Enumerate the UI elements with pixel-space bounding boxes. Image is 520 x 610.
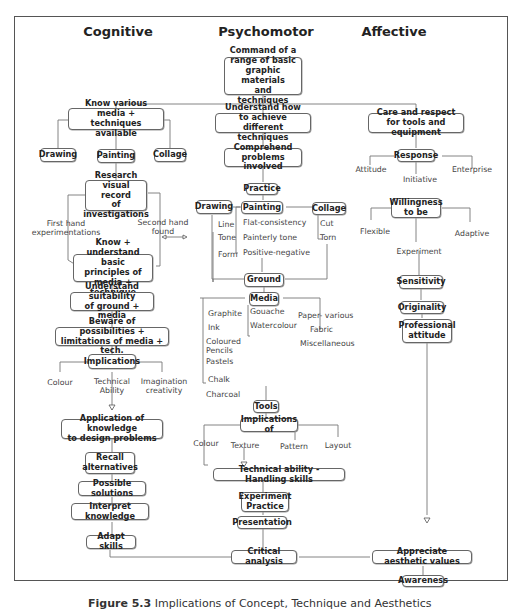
label-pattern: Pattern [280, 442, 308, 451]
header-affective: Affective [361, 24, 426, 39]
label-graphite: Graphite [208, 309, 242, 318]
label-paper-various: Paper- various [298, 311, 353, 320]
node-recall: Recall alternatives [85, 452, 135, 474]
label-form: Form [218, 250, 238, 259]
label-coloured-pencils: Coloured Pencils [206, 337, 241, 356]
label-tone: Tone [218, 233, 236, 242]
label-impl-colour: Colour [193, 439, 218, 448]
node-cog-collage: Collage [154, 148, 186, 162]
node-experiment-practice: Experiment Practice [241, 492, 289, 512]
node-comprehend: Comprehend problems involved [224, 148, 302, 167]
node-possible: Possible solutions [78, 481, 146, 496]
header-psychomotor: Psychomotor [218, 24, 313, 39]
node-implications: Implications [88, 354, 136, 369]
caption-label: Figure 5.3 [88, 597, 151, 610]
node-response: Response [397, 149, 435, 162]
label-layout: Layout [325, 441, 352, 450]
label-texture: Texture [231, 441, 260, 450]
node-implications-of: Implications of [240, 418, 298, 432]
label-cut: Cut [320, 219, 333, 228]
label-chalk: Chalk [208, 375, 230, 384]
label-initiative: Initiative [403, 175, 437, 184]
node-ground: Ground [244, 273, 284, 287]
label-technical-ability: Technical Ability [94, 377, 130, 396]
label-miscellaneous: Miscellaneous [300, 339, 355, 348]
node-psy-drawing: Drawing [196, 200, 232, 214]
node-presentation: Presentation [237, 516, 287, 529]
node-cog-drawing: Drawing [40, 148, 76, 162]
header-cognitive: Cognitive [83, 24, 152, 39]
node-critical-analysis: Critical analysis [231, 550, 297, 564]
caption-text: Implications of Concept, Technique and A… [155, 597, 432, 610]
node-originality: Originality [400, 301, 444, 314]
node-suitability: Understand suitability of ground + media [70, 292, 154, 311]
node-research: Research visual record of investigations [85, 180, 147, 211]
node-willingness: Willingness to be [391, 198, 441, 218]
node-psy-painting: Painting [241, 201, 283, 214]
label-first-hand: First hand experimentations [32, 219, 101, 238]
label-line: Line [218, 220, 234, 229]
label-charcoal: Charcoal [206, 390, 240, 399]
label-enterprise: Enterprise [452, 165, 492, 174]
node-application: Application of knowledge to design probl… [61, 419, 163, 439]
label-second-hand: Second hand found [138, 218, 189, 237]
node-technical-ability: Technical ability - Handling skills [213, 468, 345, 481]
node-psy-collage: Collage [312, 202, 346, 215]
label-attitude: Attitude [355, 165, 386, 174]
label-positive-negative: Positive-negative [243, 248, 310, 257]
figure-caption: Figure 5.3 Implications of Concept, Tech… [88, 597, 432, 610]
node-practice: Practice [246, 183, 278, 195]
label-watercolour: Watercolour [250, 321, 297, 330]
label-flat-consistency: Flat-consistency [243, 218, 306, 227]
label-torn: Torn [320, 233, 336, 242]
label-fabric: Fabric [310, 325, 333, 334]
node-appreciate: Appreciate aesthetic values [372, 550, 472, 564]
label-painterly-tone: Painterly tone [243, 233, 297, 242]
node-care: Care and respect for tools and equipment [368, 113, 464, 133]
node-know-media: Know various media + techniques availabl… [68, 108, 164, 130]
node-beware: Beware of possibilities + limitations of… [55, 327, 169, 346]
node-cog-painting: Painting [97, 149, 135, 163]
node-interpret: Interpret knowledge [71, 503, 149, 520]
label-colour: Colour [47, 378, 72, 387]
node-tools: Tools [253, 400, 279, 413]
node-professional: Professional attitude [402, 319, 452, 343]
label-flexible: Flexible [360, 227, 390, 236]
label-imagination: Imagination creativity [141, 377, 187, 396]
label-gouache: Gouache [250, 307, 285, 316]
node-sensitivity: Sensitivity [399, 275, 443, 289]
root-node: Command of a range of basic graphic mate… [224, 57, 302, 95]
label-experiment: Experiment [396, 247, 441, 256]
node-media: Media [249, 292, 279, 306]
label-adaptive: Adaptive [455, 229, 490, 238]
label-ink: Ink [208, 323, 220, 332]
node-awareness: Awareness [402, 575, 444, 587]
node-understand: Understand how to achieve different tech… [215, 113, 311, 133]
node-adapt: Adapt skills [86, 535, 136, 549]
node-know-understand: Know + understand basic principles of me… [73, 254, 153, 282]
label-pastels: Pastels [206, 357, 233, 366]
